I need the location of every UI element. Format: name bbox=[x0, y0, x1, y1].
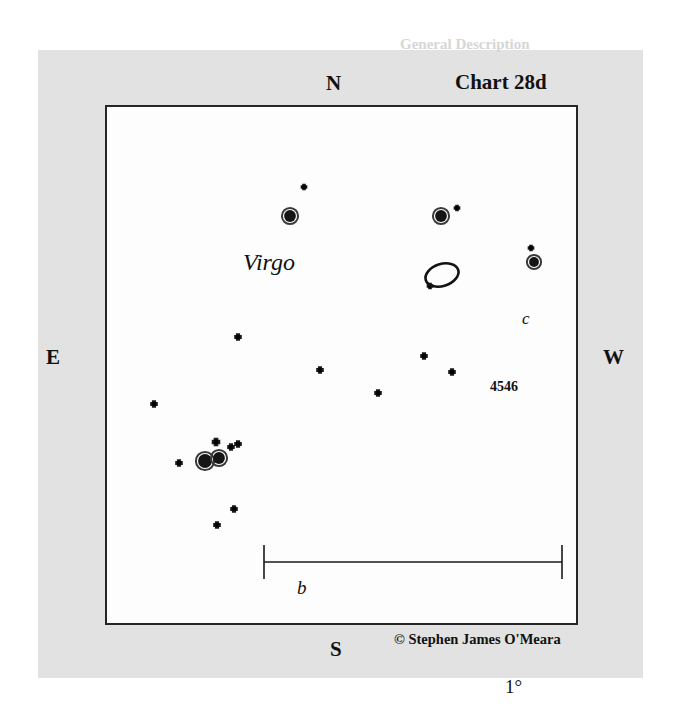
compass-label-west: W bbox=[603, 345, 624, 370]
star-core bbox=[455, 206, 459, 210]
star-core bbox=[302, 185, 306, 189]
star-core bbox=[215, 523, 219, 527]
star-core bbox=[529, 246, 533, 250]
chart-title: Chart 28d bbox=[455, 70, 547, 95]
star-core bbox=[450, 370, 454, 374]
ghost-text-line: General Description bbox=[400, 36, 530, 53]
compass-label-east: E bbox=[46, 345, 60, 370]
star-marker bbox=[316, 366, 324, 374]
star-core bbox=[213, 452, 225, 464]
star-core bbox=[236, 335, 240, 339]
star-core bbox=[229, 445, 233, 449]
star-marker bbox=[234, 440, 242, 448]
constellation-label: Virgo bbox=[243, 249, 295, 276]
star-marker bbox=[454, 205, 461, 212]
scale-bar bbox=[264, 545, 562, 579]
star-field-plot bbox=[107, 107, 576, 623]
star-core bbox=[435, 210, 447, 222]
star-core bbox=[198, 454, 212, 468]
star-marker bbox=[213, 521, 221, 529]
compass-label-south: S bbox=[330, 637, 342, 662]
star-core bbox=[232, 507, 236, 511]
star-marker bbox=[527, 255, 541, 269]
star-marker bbox=[282, 208, 298, 224]
star-label-c: c bbox=[522, 309, 530, 329]
star-core bbox=[236, 442, 240, 446]
star-marker bbox=[448, 368, 456, 376]
star-marker bbox=[150, 400, 158, 408]
star-label-b: b bbox=[297, 577, 307, 599]
star-marker bbox=[528, 245, 535, 252]
scale-bar-label: 1° bbox=[505, 676, 522, 698]
star-marker bbox=[211, 450, 227, 466]
star-marker bbox=[301, 184, 308, 191]
star-marker bbox=[433, 208, 449, 224]
star-marker bbox=[234, 333, 242, 341]
star-core bbox=[529, 257, 539, 267]
star-chart-box: Virgo c b 4546 1° bbox=[105, 105, 578, 625]
star-core bbox=[376, 391, 380, 395]
star-core bbox=[284, 210, 296, 222]
star-marker bbox=[212, 438, 221, 447]
star-marker bbox=[420, 352, 428, 360]
compass-label-north: N bbox=[326, 71, 341, 96]
star-core bbox=[214, 440, 219, 445]
star-core bbox=[177, 461, 181, 465]
star-marker bbox=[227, 443, 235, 451]
star-core bbox=[152, 402, 156, 406]
star-core bbox=[318, 368, 322, 372]
star-marker bbox=[230, 505, 238, 513]
star-core bbox=[422, 354, 426, 358]
star-marker bbox=[374, 389, 382, 397]
galaxy-label-4546: 4546 bbox=[490, 379, 518, 395]
screenshot-root: General DescriptionThe lenticular galaxy… bbox=[0, 0, 678, 719]
copyright-credit: © Stephen James O'Meara bbox=[394, 631, 561, 648]
stars-group bbox=[150, 184, 541, 529]
star-marker bbox=[175, 459, 183, 467]
